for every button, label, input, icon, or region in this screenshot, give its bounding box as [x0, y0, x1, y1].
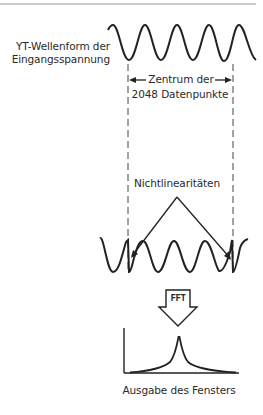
fft-label: FFT [171, 293, 186, 303]
spectrum-peak-curve [130, 337, 236, 373]
input-waveform-label-line2: Eingangsspannung [12, 53, 110, 66]
input-waveform-label-line1: YT-Wellenform der [16, 40, 110, 53]
nonlinearity-pointer-arrows [131, 197, 231, 260]
spectrum-plot [124, 328, 239, 373]
center-label-line1: Zentrum der [148, 73, 213, 86]
nonlinearities-label: Nichtlinearitäten [134, 177, 220, 190]
center-label-line2: 2048 Datenpunkte [132, 88, 229, 101]
window-output-caption: Ausgabe des Fensters [122, 384, 235, 397]
input-sine-waveform [108, 25, 256, 61]
